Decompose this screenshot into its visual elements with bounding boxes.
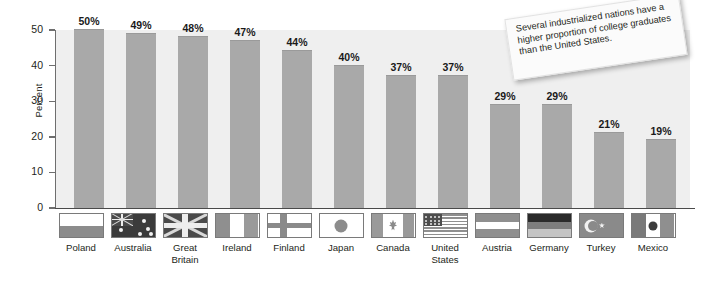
flag-legend-item: UnitedStates	[419, 213, 471, 265]
flag-legend-item: Canada	[367, 213, 419, 254]
country-label: Germany	[523, 242, 575, 254]
flag-legend-item: Japan	[315, 213, 367, 254]
bar-value-label: 37%	[419, 61, 487, 73]
bar-slot: 37%	[375, 30, 427, 208]
flag-legend-item: Austria	[471, 213, 523, 254]
country-label: UnitedStates	[419, 242, 471, 265]
country-label: Poland	[55, 242, 107, 254]
flag-ireland-icon	[215, 213, 260, 238]
flag-poland-icon	[59, 213, 104, 238]
flag-legend-item: Australia	[107, 213, 159, 254]
flag-legend-item: Mexico	[627, 213, 679, 254]
bar	[542, 104, 572, 208]
flag-legend-item: Finland	[263, 213, 315, 254]
chart-root: Percent 50403020100 50%49%48%47%44%40%37…	[0, 0, 712, 281]
bar	[74, 29, 104, 208]
country-label: Finland	[263, 242, 315, 254]
bar	[646, 139, 676, 208]
flag-legend-item: Ireland	[211, 213, 263, 254]
flag-finland-icon	[267, 213, 312, 238]
bar	[282, 50, 312, 208]
y-axis-tick-label: 0	[37, 201, 43, 213]
flag-legend-item: Turkey	[575, 213, 627, 254]
bar	[334, 65, 364, 208]
bar	[230, 40, 260, 208]
bar-slot: 49%	[115, 30, 167, 208]
y-axis-tick-label: 50	[31, 23, 43, 35]
bar	[386, 75, 416, 208]
bar-slot: 48%	[167, 30, 219, 208]
bar	[126, 33, 156, 208]
country-label: Mexico	[627, 242, 679, 254]
flag-turkey-icon	[579, 213, 624, 238]
bar	[178, 36, 208, 208]
bar-slot: 37%	[427, 30, 479, 208]
country-label: Japan	[315, 242, 367, 254]
flag-austria-icon	[475, 213, 520, 238]
bar-slot: 50%	[63, 30, 115, 208]
y-axis-tick-label: 30	[31, 94, 43, 106]
flag-legend-item: GreatBritain	[159, 213, 211, 265]
flag-germany-icon	[527, 213, 572, 238]
country-label: GreatBritain	[159, 242, 211, 265]
y-axis-tick-label: 20	[31, 130, 43, 142]
flag-legend: PolandAustraliaGreatBritainIrelandFinlan…	[55, 213, 695, 281]
flag-mexico-icon	[631, 213, 676, 238]
bar-slot: 40%	[323, 30, 375, 208]
country-label: Australia	[107, 242, 159, 254]
flag-united-states-icon	[423, 213, 468, 238]
flag-australia-icon	[111, 213, 156, 238]
flag-legend-item: Poland	[55, 213, 107, 254]
bar	[490, 104, 520, 208]
y-axis-tick-label: 10	[31, 165, 43, 177]
x-axis-line	[55, 208, 695, 209]
y-axis: Percent 50403020100	[0, 0, 55, 281]
bar	[438, 75, 468, 208]
callout-note-text: Several industrialized nations have a hi…	[515, 1, 675, 59]
country-label: Austria	[471, 242, 523, 254]
country-label: Canada	[367, 242, 419, 254]
country-label: Ireland	[211, 242, 263, 254]
country-label: Turkey	[575, 242, 627, 254]
flag-japan-icon	[319, 213, 364, 238]
bar-value-label: 19%	[627, 125, 695, 137]
bar	[594, 132, 624, 208]
flag-legend-item: Germany	[523, 213, 575, 254]
bar-value-label: 44%	[263, 36, 331, 48]
bar-slot: 47%	[219, 30, 271, 208]
bar-value-label: 29%	[523, 90, 591, 102]
flag-canada-icon	[371, 213, 416, 238]
flag-great-britain-icon	[163, 213, 208, 238]
y-axis-tick-label: 40	[31, 59, 43, 71]
